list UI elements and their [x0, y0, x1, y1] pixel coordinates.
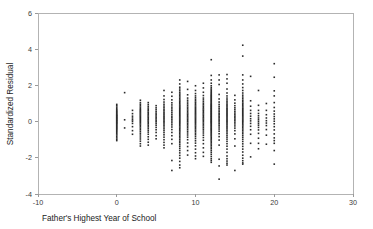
data-point: [163, 128, 165, 130]
data-point: [218, 104, 220, 106]
data-point: [187, 122, 189, 124]
data-point: [242, 157, 244, 159]
data-point: [195, 99, 197, 101]
y-axis: -4-20246: [26, 9, 38, 199]
data-point: [250, 118, 252, 120]
data-point: [242, 98, 244, 100]
data-point: [187, 121, 189, 123]
data-point: [234, 107, 236, 109]
data-point: [187, 136, 189, 138]
data-point: [203, 137, 205, 139]
data-point: [187, 146, 189, 148]
data-point: [242, 99, 244, 101]
data-point: [242, 163, 244, 165]
data-point: [234, 130, 236, 132]
data-point: [242, 96, 244, 98]
data-point: [195, 85, 197, 87]
data-point: [171, 117, 173, 119]
data-point: [179, 92, 181, 94]
data-point: [147, 123, 149, 125]
data-point: [155, 105, 157, 107]
data-point: [203, 104, 205, 106]
data-point: [147, 107, 149, 109]
data-point: [163, 142, 165, 144]
data-point: [226, 141, 228, 143]
data-point: [234, 127, 236, 129]
data-point: [210, 85, 212, 87]
data-point: [195, 152, 197, 154]
data-point: [218, 165, 220, 167]
data-point: [171, 122, 173, 124]
data-point: [195, 128, 197, 130]
data-point: [203, 101, 205, 103]
data-point: [179, 150, 181, 152]
data-point: [258, 121, 260, 123]
data-point: [163, 125, 165, 127]
data-point: [226, 128, 228, 130]
data-point: [210, 160, 212, 162]
data-point: [187, 139, 189, 141]
data-point: [179, 152, 181, 154]
data-point: [242, 87, 244, 89]
y-tick-label-group: -4-20246: [26, 9, 32, 199]
data-point: [179, 140, 181, 142]
data-point: [155, 129, 157, 131]
data-point: [273, 143, 275, 145]
data-point: [116, 136, 118, 138]
data-point: [218, 106, 220, 108]
data-point: [266, 117, 268, 119]
data-point: [163, 134, 165, 136]
data-point: [226, 155, 228, 157]
data-point: [234, 105, 236, 107]
data-point: [187, 132, 189, 134]
data-point: [132, 117, 134, 119]
data-point: [155, 123, 157, 125]
data-point: [203, 130, 205, 132]
data-point: [218, 112, 220, 114]
data-point: [242, 137, 244, 139]
data-point: [273, 123, 275, 125]
data-point: [140, 124, 142, 126]
data-point: [155, 111, 157, 113]
data-point: [258, 143, 260, 145]
data-point: [155, 135, 157, 137]
data-point: [171, 124, 173, 126]
data-point: [163, 105, 165, 107]
data-point: [210, 143, 212, 145]
data-point: [226, 162, 228, 164]
data-point: [218, 98, 220, 100]
data-point: [147, 139, 149, 141]
x-tick-label: -10: [33, 198, 43, 207]
data-point-layer: [116, 44, 275, 180]
data-point: [242, 160, 244, 162]
data-point: [218, 158, 220, 160]
data-point: [242, 83, 244, 85]
data-point: [140, 102, 142, 104]
data-point: [116, 105, 118, 107]
data-point: [226, 82, 228, 84]
data-point: [195, 158, 197, 160]
data-point: [195, 131, 197, 133]
data-point: [266, 129, 268, 131]
data-point: [147, 122, 149, 124]
data-point: [171, 106, 173, 108]
data-point: [155, 114, 157, 116]
x-tick-label: 20: [270, 198, 278, 207]
data-point: [242, 128, 244, 130]
data-point: [116, 106, 118, 108]
data-point: [234, 145, 236, 147]
data-point: [250, 113, 252, 115]
data-point: [210, 87, 212, 89]
data-point: [242, 143, 244, 145]
data-point: [210, 75, 212, 77]
data-point: [273, 129, 275, 131]
data-point: [203, 147, 205, 149]
data-point: [242, 55, 244, 57]
data-point: [226, 145, 228, 147]
data-point: [155, 124, 157, 126]
data-point: [195, 140, 197, 142]
data-point: [250, 143, 252, 145]
data-point: [258, 137, 260, 139]
data-point: [273, 102, 275, 104]
data-point: [179, 167, 181, 169]
